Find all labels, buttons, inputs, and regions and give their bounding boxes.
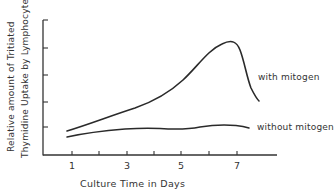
y-axis-label-line-2: Thymidine Uptake by Lymphocytes [20, 0, 30, 158]
x-tick-label-5: 5 [178, 160, 184, 171]
series-label-without-mitogen: without mitogen [257, 122, 334, 132]
x-axis-label: Culture Time in Days [80, 178, 185, 189]
y-axis-label-line-1: Relative amount of Tritiated [6, 21, 16, 152]
x-tick-label-3: 3 [124, 160, 130, 171]
y-axis-label: Relative amount of Tritiated Thymidine U… [0, 0, 40, 170]
series-label-with-mitogen: with mitogen [258, 72, 320, 82]
series-without-mitogen-line [67, 125, 249, 137]
x-tick-label-1: 1 [69, 160, 75, 171]
x-tick-label-7: 7 [234, 160, 240, 171]
y-ticks [43, 20, 48, 127]
series-with-mitogen-line [67, 42, 259, 131]
